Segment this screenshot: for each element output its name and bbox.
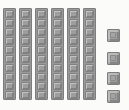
rod-unit-segment bbox=[37, 91, 46, 99]
rod-unit-segment bbox=[37, 82, 46, 90]
rod-unit-segment bbox=[69, 37, 78, 45]
rod-unit-segment bbox=[53, 10, 62, 18]
rod-unit-segment bbox=[37, 28, 46, 36]
rod-unit-segment bbox=[37, 64, 46, 72]
rod-unit-segment bbox=[5, 46, 14, 54]
rod-unit-segment bbox=[21, 19, 30, 27]
rod-unit-segment bbox=[85, 82, 94, 90]
rod-unit-segment bbox=[21, 73, 30, 81]
rod-unit-segment bbox=[85, 19, 94, 27]
rod-unit-segment bbox=[69, 82, 78, 90]
rod-unit-segment bbox=[5, 82, 14, 90]
unit-cube[interactable] bbox=[107, 52, 120, 65]
rod-unit-segment bbox=[69, 73, 78, 81]
rod-unit-segment bbox=[53, 28, 62, 36]
rod-unit-segment bbox=[53, 55, 62, 63]
rod-unit-segment bbox=[69, 55, 78, 63]
rod-unit-segment bbox=[5, 37, 14, 45]
rod-unit-segment bbox=[5, 64, 14, 72]
rod-unit-segment bbox=[53, 46, 62, 54]
ten-rod[interactable] bbox=[83, 8, 96, 100]
rod-unit-segment bbox=[5, 19, 14, 27]
rod-unit-segment bbox=[37, 46, 46, 54]
rod-unit-segment bbox=[85, 64, 94, 72]
rod-unit-segment bbox=[37, 55, 46, 63]
rod-unit-segment bbox=[85, 91, 94, 99]
rod-unit-segment bbox=[69, 46, 78, 54]
unit-cube[interactable] bbox=[107, 29, 120, 42]
rod-unit-segment bbox=[5, 73, 14, 81]
rod-unit-segment bbox=[53, 73, 62, 81]
rod-unit-segment bbox=[69, 19, 78, 27]
rod-unit-segment bbox=[21, 82, 30, 90]
rod-unit-segment bbox=[21, 91, 30, 99]
rod-unit-segment bbox=[53, 64, 62, 72]
rod-unit-segment bbox=[85, 73, 94, 81]
ten-rod[interactable] bbox=[67, 8, 80, 100]
rod-unit-segment bbox=[53, 82, 62, 90]
rod-unit-segment bbox=[85, 46, 94, 54]
rod-unit-segment bbox=[21, 37, 30, 45]
rod-unit-segment bbox=[85, 10, 94, 18]
ten-rod[interactable] bbox=[35, 8, 48, 100]
unit-cube[interactable] bbox=[107, 72, 120, 85]
rod-unit-segment bbox=[85, 37, 94, 45]
ten-rod[interactable] bbox=[19, 8, 32, 100]
rod-unit-segment bbox=[53, 91, 62, 99]
rod-unit-segment bbox=[53, 19, 62, 27]
rod-unit-segment bbox=[53, 37, 62, 45]
rod-unit-segment bbox=[21, 28, 30, 36]
rod-unit-segment bbox=[37, 10, 46, 18]
rod-unit-segment bbox=[21, 46, 30, 54]
rod-unit-segment bbox=[5, 55, 14, 63]
rod-unit-segment bbox=[37, 73, 46, 81]
unit-cube[interactable] bbox=[107, 90, 120, 103]
rod-unit-segment bbox=[21, 55, 30, 63]
scene-title: Base ten blocks bbox=[0, 0, 1, 1]
rod-unit-segment bbox=[37, 19, 46, 27]
rod-unit-segment bbox=[69, 91, 78, 99]
rod-unit-segment bbox=[5, 10, 14, 18]
rod-unit-segment bbox=[69, 64, 78, 72]
rod-unit-segment bbox=[21, 64, 30, 72]
base-ten-blocks-canvas: Base ten blocks bbox=[0, 0, 129, 110]
rod-unit-segment bbox=[5, 91, 14, 99]
rod-unit-segment bbox=[5, 28, 14, 36]
rod-unit-segment bbox=[37, 37, 46, 45]
ten-rod[interactable] bbox=[51, 8, 64, 100]
ten-rod[interactable] bbox=[3, 8, 16, 100]
rod-unit-segment bbox=[85, 55, 94, 63]
rod-unit-segment bbox=[69, 10, 78, 18]
rod-unit-segment bbox=[85, 28, 94, 36]
rod-unit-segment bbox=[21, 10, 30, 18]
rod-unit-segment bbox=[69, 28, 78, 36]
